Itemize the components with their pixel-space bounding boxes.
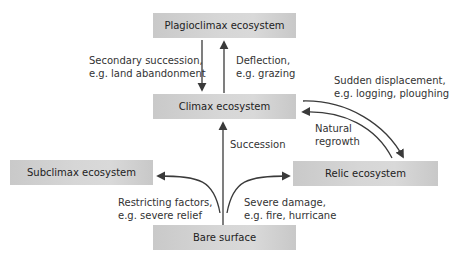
label-sudden-displacement: Sudden displacement, e.g. logging, ploug…: [334, 75, 449, 100]
label-severe-damage: Severe damage, e.g. fire, hurricane: [244, 197, 336, 222]
node-plagioclimax: Plagioclimax ecosystem: [153, 13, 296, 38]
node-label: Bare surface: [193, 232, 256, 243]
node-label: Plagioclimax ecosystem: [164, 20, 284, 31]
node-bare-surface: Bare surface: [153, 225, 296, 250]
node-climax: Climax ecosystem: [153, 94, 296, 119]
node-relic: Relic ecosystem: [293, 161, 438, 186]
label-natural-regrowth: Natural regrowth: [315, 123, 360, 148]
arrows-layer: [0, 0, 451, 261]
node-label: Subclimax ecosystem: [27, 167, 136, 178]
node-subclimax: Subclimax ecosystem: [10, 160, 153, 185]
label-secondary-succession: Secondary succession, e.g. land abandonm…: [89, 55, 206, 80]
node-label: Relic ecosystem: [325, 168, 406, 179]
label-succession: Succession: [230, 139, 286, 152]
node-label: Climax ecosystem: [179, 101, 270, 112]
label-restricting-factors: Restricting factors, e.g. severe relief: [118, 197, 212, 222]
label-deflection: Deflection, e.g. grazing: [236, 55, 295, 80]
